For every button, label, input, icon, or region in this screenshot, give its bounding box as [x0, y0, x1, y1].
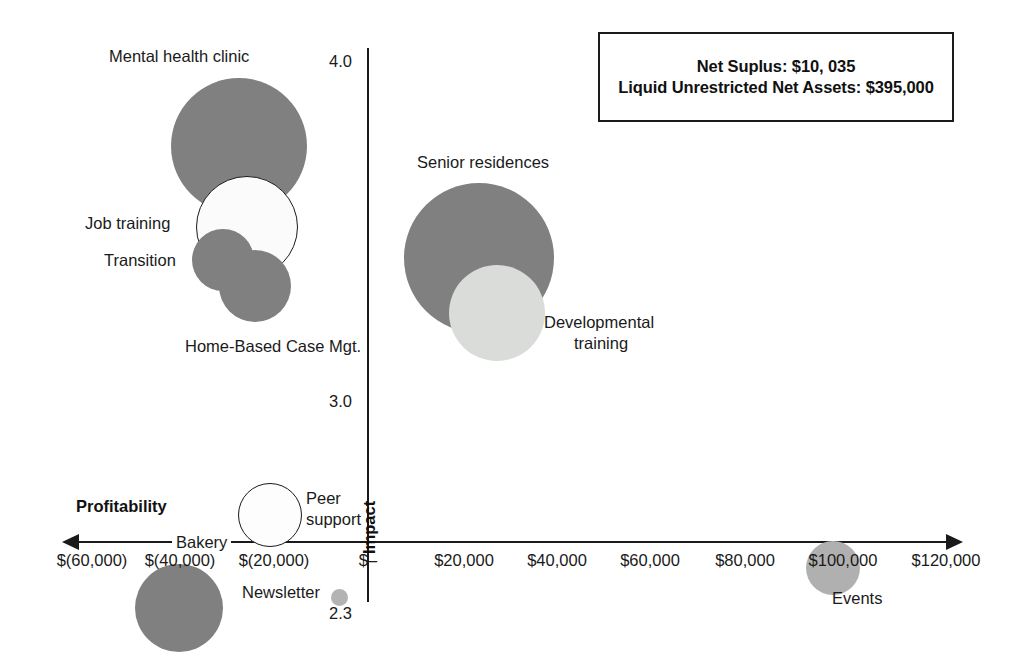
x-tick-label-2: $(20,000) [239, 551, 310, 570]
summary-net-surplus: Net Suplus: $10, 035 [697, 57, 855, 76]
y-tick-label-4-0: 4.0 [329, 52, 352, 71]
x-axis-title: Profitability [76, 497, 167, 516]
y-axis-title: Impact [360, 501, 379, 554]
x-tick-label-1: $(40,000) [145, 551, 216, 570]
x-tick-label-7: $80,000 [715, 551, 775, 570]
bubble-peer-support[interactable] [238, 483, 302, 547]
bubble-label-transition: Transition [104, 251, 176, 270]
x-axis-left-arrowhead-icon [62, 534, 79, 550]
x-tick-label-6: $60,000 [620, 551, 680, 570]
x-tick-label-8: $100,000 [809, 551, 878, 570]
summary-liquid-net-assets: Liquid Unrestricted Net Assets: $395,000 [618, 78, 933, 97]
bubble-label-senior-residences: Senior residences [417, 153, 549, 172]
y-tick-label-2-3: 2.3 [329, 604, 352, 623]
bubble-home-based-case-mgt[interactable] [219, 250, 291, 322]
x-tick-label-4: $20,000 [434, 551, 494, 570]
x-tick-label-0: $(60,000) [57, 551, 128, 570]
x-axis-right-arrowhead-icon [946, 534, 963, 550]
x-tick-label-5: $40,000 [527, 551, 587, 570]
summary-callout-box: Net Suplus: $10, 035 Liquid Unrestricted… [598, 32, 954, 122]
y-tick-label-3-0: 3.0 [329, 392, 352, 411]
bubble-label-developmental-training-line2: training [574, 334, 628, 353]
bubble-label-job-training: Job training [85, 214, 170, 233]
bubble-bakery[interactable] [135, 564, 223, 652]
bubble-label-home-based-case-mgt: Home-Based Case Mgt. [185, 337, 361, 356]
bubble-label-mental-health-clinic: Mental health clinic [109, 47, 249, 66]
bubble-label-peer-support-line1: Peer [306, 489, 341, 508]
bubble-developmental-training[interactable] [449, 265, 545, 361]
bubble-label-events: Events [832, 589, 882, 608]
bubble-label-peer-support-line2: support [306, 510, 361, 529]
bubble-chart-canvas: Mental health clinic Job training Transi… [0, 0, 1026, 665]
bubble-label-bakery: Bakery [172, 533, 231, 552]
bubble-label-newsletter: Newsletter [242, 583, 320, 602]
bubble-label-developmental-training-line1: Developmental [544, 313, 654, 332]
x-tick-label-9: $120,000 [912, 551, 981, 570]
